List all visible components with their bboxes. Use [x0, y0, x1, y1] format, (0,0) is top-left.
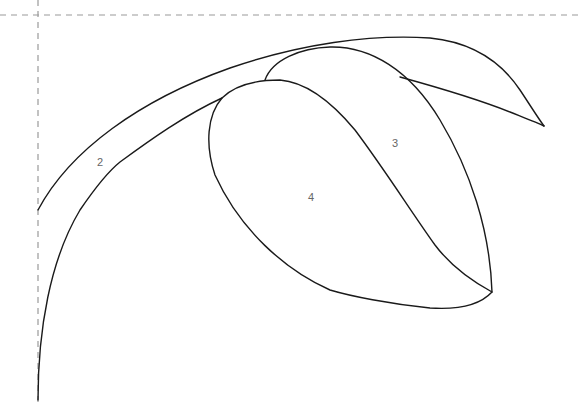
petal-back-outline — [265, 47, 492, 292]
region-label-3: 3 — [392, 138, 398, 149]
region-label-4: 4 — [308, 192, 314, 203]
petal-front-outline — [209, 80, 492, 308]
region-label-2: 2 — [97, 157, 103, 168]
line-drawing-canvas — [0, 0, 578, 403]
stem-outer-edge — [38, 37, 544, 210]
sepal-lower-edge — [400, 77, 544, 126]
stem-inner-edge — [38, 98, 222, 400]
